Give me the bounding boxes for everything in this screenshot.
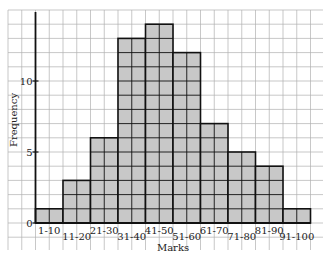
x-category-label: 11-20 [62,231,91,242]
x-category-label: 1-10 [38,225,60,236]
x-category-label: 31-40 [117,231,146,242]
histogram-chart: 05101-1011-2021-3031-4041-5051-6061-7071… [0,0,333,265]
x-category-label: 71-80 [227,231,256,242]
x-category-label: 41-50 [145,225,174,236]
x-category-label: 51-60 [172,231,201,242]
x-axis-title: Marks [157,242,189,253]
x-category-label: 61-70 [200,225,229,236]
y-tick-label: 0 [26,218,32,229]
y-axis-title: Frequency [8,93,19,147]
y-tick-label: 5 [26,147,32,158]
x-category-label: 21-30 [90,225,119,236]
x-category-label: 91-100 [279,231,314,242]
y-tick-label: 10 [20,76,33,87]
